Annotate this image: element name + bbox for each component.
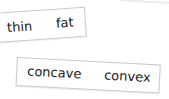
partial-card-edge: [120, 0, 169, 4]
word-pair-card-2: concave convex: [15, 57, 160, 93]
word-concave: concave: [27, 64, 82, 82]
word-convex: convex: [104, 68, 151, 85]
word-pair-card-1: thin fat: [0, 7, 87, 43]
word-thin: thin: [7, 18, 33, 35]
word-fat: fat: [55, 14, 74, 30]
